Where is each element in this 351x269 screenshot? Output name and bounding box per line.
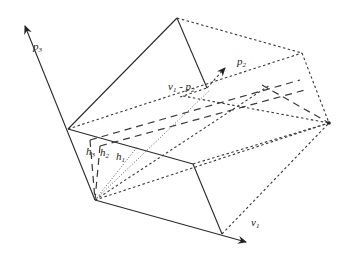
v1-vector [95, 200, 246, 242]
p3-label: p3 [32, 40, 43, 54]
h2-label: h2 [100, 146, 110, 160]
dashed-lines [90, 80, 329, 200]
h1-label: h1 [116, 150, 125, 164]
edge [193, 164, 222, 234]
v1-minus-p2-label: v1 - p2 [168, 80, 195, 94]
h3-label: h3 [86, 145, 96, 159]
vertex-point [327, 121, 331, 125]
solid-edges [25, 18, 246, 242]
p2-label: p2 [236, 55, 247, 69]
p3-vector [25, 26, 95, 200]
edge [68, 18, 177, 129]
edge [177, 18, 207, 88]
geometry-diagram: p3 p2 v1 - p2 h3 h2 h1 v1 [0, 0, 351, 269]
p2-vector [207, 68, 225, 88]
dotted-edges [0, 0, 329, 234]
fine-lines [95, 90, 210, 200]
v1-label: v1 [251, 216, 259, 230]
